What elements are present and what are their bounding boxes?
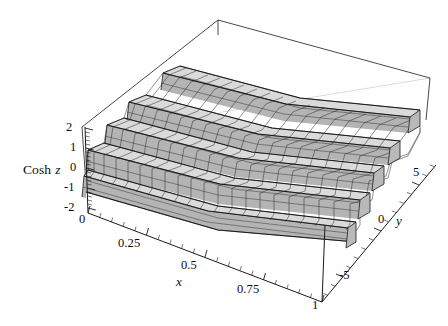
x-axis-label: x <box>176 275 182 288</box>
y-tick-neg5: -5 <box>339 269 350 282</box>
z-axis-label-variable: z <box>55 162 60 177</box>
z-tick-1: 1 <box>70 141 76 154</box>
z-tick-neg1: -1 <box>64 181 75 194</box>
y-axis-label: y <box>396 214 402 227</box>
z-tick-2: 2 <box>66 121 72 134</box>
surface-plot-graphic <box>0 0 448 326</box>
z-tick-neg2: -2 <box>64 201 75 214</box>
z-axis-label: Coshz <box>23 163 61 177</box>
y-tick-5: 5 <box>413 166 419 179</box>
figure-canvas: Coshz 2 1 0 -1 -2 0 0.25 0.5 0.75 1 x 5 … <box>0 0 448 326</box>
x-tick-0-75: 0.75 <box>237 283 259 296</box>
z-axis-label-text: Cosh <box>23 162 51 177</box>
x-tick-0-5: 0.5 <box>181 259 197 272</box>
z-tick-0: 0 <box>70 161 76 174</box>
y-tick-0: 0 <box>378 213 384 226</box>
x-tick-1: 1 <box>312 299 318 312</box>
x-tick-0: 0 <box>79 213 85 226</box>
x-tick-0-25: 0.25 <box>118 237 140 250</box>
surface-mesh <box>82 66 420 300</box>
